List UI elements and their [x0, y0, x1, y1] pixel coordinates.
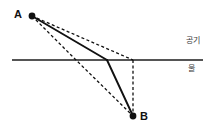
point-a-label: A [14, 9, 22, 20]
medium-label-air: 공기 [186, 37, 200, 45]
diagram-canvas [0, 0, 215, 131]
point-a-marker [29, 13, 36, 20]
incident-ray-solid [32, 16, 107, 60]
point-b-label: B [140, 111, 148, 122]
point-b-marker [130, 113, 137, 120]
undeviated-extension-dashed [32, 16, 133, 60]
straight-line-A-to-B-dashed [32, 16, 133, 116]
refracted-ray-solid [107, 60, 133, 116]
medium-label-water: 물 [188, 65, 195, 73]
refraction-diagram: A B 공기 물 [0, 0, 215, 131]
